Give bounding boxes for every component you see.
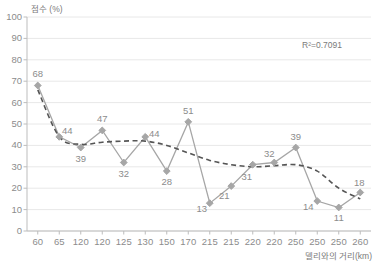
data-point-label: 39 bbox=[69, 154, 93, 164]
y-axis-tick-label: 0 bbox=[0, 226, 22, 236]
data-point-label: 28 bbox=[155, 177, 179, 187]
data-point-label: 11 bbox=[327, 213, 351, 223]
data-point-label: 32 bbox=[257, 149, 281, 159]
data-point-label: 51 bbox=[176, 106, 200, 116]
data-point-label: 18 bbox=[347, 178, 371, 188]
y-axis-tick-label: 40 bbox=[0, 140, 22, 150]
y-axis-tick-label: 50 bbox=[0, 119, 22, 129]
y-axis-tick-label: 100 bbox=[0, 12, 22, 22]
chart-container: 점수 (%) 델리와의 거리(km) R²=0.7091 01020304050… bbox=[0, 0, 378, 266]
data-point-label: 13 bbox=[190, 204, 214, 214]
data-point-label: 44 bbox=[142, 129, 166, 139]
y-axis-tick-label: 30 bbox=[0, 162, 22, 172]
y-axis-tick-label: 70 bbox=[0, 76, 22, 86]
data-point-label: 14 bbox=[296, 202, 320, 212]
y-axis-tick-label: 10 bbox=[0, 205, 22, 215]
y-axis-tick-label: 90 bbox=[0, 33, 22, 43]
x-axis-tick-label: 260 bbox=[347, 237, 373, 247]
y-axis-tick-label: 80 bbox=[0, 55, 22, 65]
data-point-label: 44 bbox=[55, 126, 79, 136]
data-point-label: 31 bbox=[235, 172, 259, 182]
y-axis-tick-label: 20 bbox=[0, 183, 22, 193]
y-axis-tick-label: 60 bbox=[0, 98, 22, 108]
data-point-label: 47 bbox=[90, 114, 114, 124]
data-point-label: 21 bbox=[212, 191, 236, 201]
data-point-label: 68 bbox=[26, 69, 50, 79]
data-point-label: 39 bbox=[284, 132, 308, 142]
data-point-label: 32 bbox=[112, 169, 136, 179]
